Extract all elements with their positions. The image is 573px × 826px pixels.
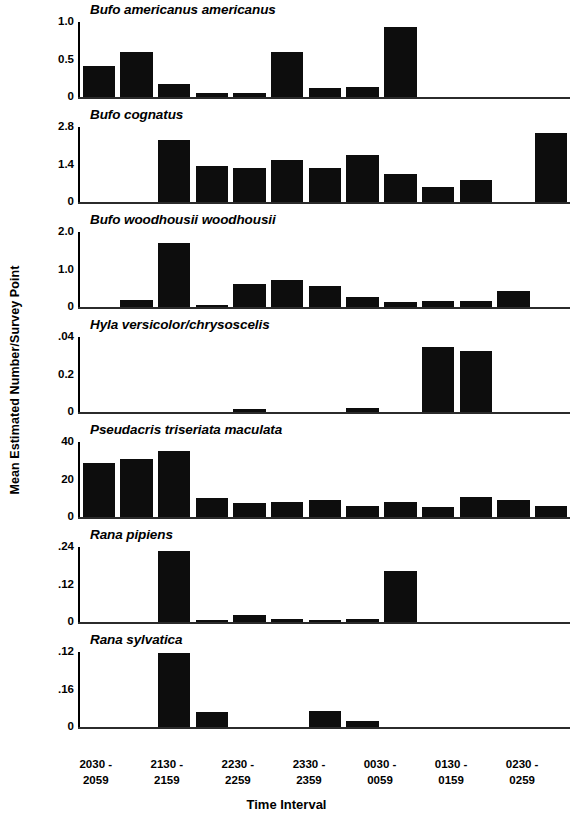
- bar[interactable]: [497, 291, 529, 307]
- x-tick-label: 2230 -2259: [222, 757, 255, 788]
- bar-slot: [532, 652, 570, 727]
- bar[interactable]: [271, 52, 303, 97]
- plot-area: Pseudacris triseriata maculata: [78, 420, 570, 525]
- x-tick-slot: 2230 -2259: [220, 757, 256, 797]
- x-tick-slot: [185, 757, 221, 797]
- bar[interactable]: [196, 712, 228, 727]
- bar-slot: [344, 232, 382, 307]
- bar-slot: [382, 337, 420, 412]
- bar[interactable]: [309, 620, 341, 622]
- bar[interactable]: [158, 243, 190, 307]
- bar-slot: [231, 22, 269, 97]
- chart-panel: .040.20Hyla versicolor/chrysoscelis: [30, 315, 573, 420]
- bar[interactable]: [346, 87, 378, 98]
- bar[interactable]: [309, 286, 341, 307]
- bar[interactable]: [196, 620, 228, 623]
- bar[interactable]: [309, 88, 341, 97]
- bar-slot: [382, 127, 420, 202]
- bar[interactable]: [422, 301, 454, 307]
- bar[interactable]: [497, 500, 529, 517]
- bar[interactable]: [158, 451, 190, 517]
- x-tick-label-line2: 2259: [222, 773, 255, 789]
- y-tick-label: .12: [58, 646, 74, 658]
- bar[interactable]: [158, 140, 190, 202]
- bar[interactable]: [346, 297, 378, 307]
- bar[interactable]: [384, 174, 416, 202]
- bar[interactable]: [422, 187, 454, 202]
- chart-panel: 2.01.00Bufo woodhousii woodhousii: [30, 210, 573, 315]
- x-tick-label: 2030 -2059: [79, 757, 112, 788]
- bar[interactable]: [83, 66, 115, 98]
- y-axis-ticks: 1.00.50: [30, 0, 74, 105]
- bar[interactable]: [460, 301, 492, 307]
- bar[interactable]: [346, 408, 378, 412]
- bar[interactable]: [158, 653, 190, 727]
- panel-title: Pseudacris triseriata maculata: [90, 422, 282, 437]
- bar-slot: [306, 232, 344, 307]
- bar[interactable]: [271, 619, 303, 622]
- bar[interactable]: [460, 351, 492, 412]
- bar-slot: [193, 337, 231, 412]
- bar[interactable]: [233, 409, 265, 412]
- bar[interactable]: [384, 27, 416, 98]
- x-tick-label-line2: 0059: [364, 773, 397, 789]
- bar[interactable]: [120, 459, 152, 517]
- bar[interactable]: [233, 93, 265, 98]
- x-tick-label-line2: 2059: [79, 773, 112, 789]
- bar[interactable]: [346, 155, 378, 202]
- x-tick-slot: [327, 757, 363, 797]
- bar-slot: [457, 127, 495, 202]
- bar[interactable]: [196, 305, 228, 307]
- bar[interactable]: [309, 168, 341, 202]
- bar[interactable]: [346, 506, 378, 517]
- bar[interactable]: [83, 463, 115, 517]
- bar[interactable]: [422, 507, 454, 517]
- bar-slot: [344, 22, 382, 97]
- y-tick-label: .24: [58, 541, 74, 553]
- bar[interactable]: [271, 280, 303, 307]
- bar-slot: [532, 127, 570, 202]
- bar[interactable]: [535, 506, 567, 517]
- bar-slot: [419, 547, 457, 622]
- bar[interactable]: [460, 497, 492, 517]
- bar-slot: [495, 652, 533, 727]
- bar[interactable]: [233, 168, 265, 202]
- bar[interactable]: [196, 93, 228, 97]
- bar[interactable]: [271, 160, 303, 202]
- bar[interactable]: [346, 721, 378, 727]
- bar-slot: [532, 337, 570, 412]
- x-tick-label: 0030 -0059: [364, 757, 397, 788]
- x-tick-label: 2330 -2359: [293, 757, 326, 788]
- bar[interactable]: [233, 284, 265, 307]
- bar[interactable]: [309, 500, 341, 517]
- x-tick-label-line2: 0259: [506, 773, 539, 789]
- x-tick-label-line2: 2159: [151, 773, 184, 789]
- bar[interactable]: [271, 502, 303, 517]
- x-tick-slot: 2330 -2359: [291, 757, 327, 797]
- bar[interactable]: [120, 52, 152, 97]
- bar[interactable]: [158, 551, 190, 622]
- bar[interactable]: [233, 503, 265, 517]
- bar[interactable]: [196, 498, 228, 517]
- bar[interactable]: [158, 84, 190, 98]
- bar-group: [80, 337, 570, 412]
- bar[interactable]: [384, 302, 416, 307]
- bar[interactable]: [120, 300, 152, 307]
- bar[interactable]: [460, 180, 492, 202]
- plot-area: Hyla versicolor/chrysoscelis: [78, 315, 570, 420]
- y-tick-label: .12: [58, 579, 74, 591]
- bar-slot: [268, 442, 306, 517]
- bar[interactable]: [384, 502, 416, 517]
- y-axis-ticks: 2.81.40: [30, 105, 74, 210]
- bar[interactable]: [422, 347, 454, 412]
- y-tick-label: 0: [68, 616, 74, 628]
- x-tick-slot: 0130 -0159: [433, 757, 469, 797]
- bar[interactable]: [309, 711, 341, 727]
- bar[interactable]: [196, 166, 228, 202]
- bar[interactable]: [346, 619, 378, 622]
- bar[interactable]: [384, 571, 416, 622]
- y-tick-label: .16: [58, 684, 74, 696]
- bar[interactable]: [233, 615, 265, 622]
- bar[interactable]: [535, 133, 567, 202]
- panel-title: Bufo cognatus: [90, 107, 183, 122]
